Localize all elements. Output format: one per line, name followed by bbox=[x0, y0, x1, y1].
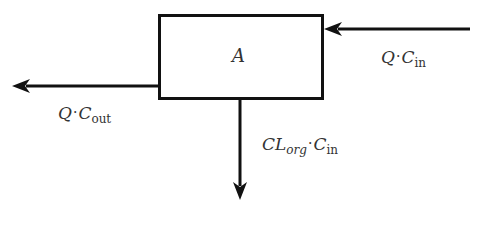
clearance-arrow bbox=[233, 100, 247, 200]
inflow-arrow bbox=[324, 22, 470, 36]
outflow-arrow bbox=[12, 79, 158, 93]
inflow-label: Q·Cin bbox=[381, 47, 426, 67]
outflow-label: Q·Cout bbox=[58, 103, 111, 123]
compartment-label: A bbox=[232, 45, 245, 66]
clearance-label: CLorg·Cin bbox=[262, 134, 338, 154]
